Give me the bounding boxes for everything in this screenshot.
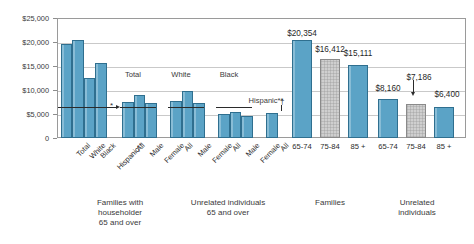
bar-unrel-hispanic-all[interactable]	[266, 113, 278, 138]
bar-families-hispanic[interactable]	[95, 63, 107, 138]
value-label-6400: $6,400	[434, 90, 459, 99]
x-tick-label-unrel-85-plus: 85 +	[437, 142, 452, 151]
dagger-leader-line	[281, 105, 282, 111]
bar-families-black[interactable]	[84, 78, 96, 138]
y-tick-label: $25,000	[22, 14, 49, 23]
gridline	[58, 91, 465, 92]
value-label-20354: $20,354	[287, 29, 317, 38]
reference-line-segment	[120, 107, 156, 108]
reference-line-segment	[168, 107, 204, 108]
x-tick-label-unrel-black-female: Female	[258, 141, 282, 165]
bar-families-85-plus[interactable]	[348, 65, 368, 138]
reference-line-segment	[58, 107, 108, 108]
y-tick-label: $5,000	[26, 110, 49, 119]
x-tick-label-unrel-black-all: All	[230, 141, 242, 153]
reference-line-arrow-icon	[116, 105, 120, 109]
y-tick-label: $10,000	[22, 86, 49, 95]
bar-families-65-74[interactable]	[292, 40, 312, 138]
x-tick-label-unrel-total-female: Female	[162, 141, 186, 165]
inner-caption-white: White	[171, 70, 190, 79]
value-label-7186: $7,186	[406, 73, 431, 82]
value-label-15111: $15,111	[344, 49, 372, 58]
bar-unrel-white-male[interactable]	[182, 91, 194, 138]
x-tick-label-unrel-75-84: 75-84	[406, 142, 425, 151]
bar-families-total[interactable]	[61, 44, 73, 138]
bar-unrel-85-plus[interactable]	[434, 107, 454, 138]
bar-unrel-total-female[interactable]	[145, 103, 157, 138]
bar-unrel-white-female[interactable]	[193, 103, 205, 138]
y-axis: $25,000$20,000$15,000$10,000$5,0000	[0, 0, 57, 244]
x-tick-label-unrel-65-74: 65-74	[378, 142, 397, 151]
asterisk-marker: *	[110, 101, 113, 110]
bar-families-75-84[interactable]	[320, 59, 340, 138]
y-tick-label: $20,000	[22, 38, 49, 47]
bar-families-white[interactable]	[72, 40, 84, 138]
gridline	[58, 115, 465, 116]
y-tick-label: 0	[45, 134, 49, 143]
bar-unrel-75-84[interactable]	[406, 104, 426, 138]
bar-unrel-65-74[interactable]	[378, 99, 398, 138]
group-caption-families: Families	[315, 198, 345, 208]
value-label-8160: $8,160	[375, 84, 400, 93]
chart-root: $25,000$20,000$15,000$10,000$5,0000 $20,…	[0, 0, 474, 244]
value-leader-arrow-icon-7186	[411, 92, 415, 96]
x-tick-label-families-85-plus: 85 +	[351, 142, 366, 151]
inner-caption-hispanic: Hispanic**	[248, 96, 283, 105]
bar-unrel-black-male[interactable]	[230, 112, 242, 138]
x-tick-label-families-75-84: 75-84	[320, 142, 339, 151]
x-tick-label-families-65-74: 65-74	[292, 142, 311, 151]
y-tick-mark	[53, 138, 57, 139]
inner-caption-black: Black	[220, 70, 239, 79]
bar-unrel-black-female[interactable]	[241, 116, 253, 138]
group-caption-families-householder: Families with householder 65 and over	[97, 198, 143, 228]
x-tick-label-unrel-hispanic-all: All	[278, 141, 290, 153]
gridline	[58, 43, 465, 44]
x-tick-label-unrel-white-all: All	[182, 141, 194, 153]
bar-unrel-black-all[interactable]	[218, 114, 230, 138]
bar-unrel-total-male[interactable]	[134, 95, 146, 138]
x-tick-label-unrel-white-female: Female	[210, 141, 234, 165]
plot-area	[57, 18, 466, 138]
inner-caption-total: Total	[125, 70, 141, 79]
y-tick-label: $15,000	[22, 62, 49, 71]
group-caption-unrelated-65-over: Unrelated individuals 65 and over	[191, 198, 265, 218]
gridline	[58, 67, 465, 68]
group-caption-unrelated-individuals: Unrelated individuals	[398, 198, 435, 218]
value-label-16412: $16,412	[315, 45, 345, 54]
reference-line-segment	[216, 107, 252, 108]
bar-unrel-total-all[interactable]	[122, 102, 134, 138]
